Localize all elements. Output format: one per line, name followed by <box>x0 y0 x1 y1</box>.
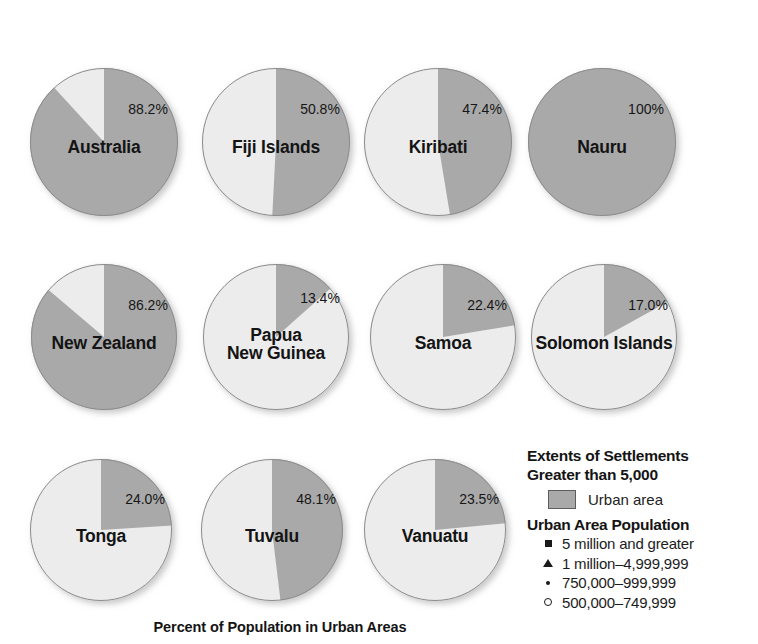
pie-slice-urban <box>272 459 343 600</box>
pie-slice-urban <box>101 459 172 530</box>
filled-square-icon <box>540 534 556 554</box>
pie-chart-tonga: 24.0%Tonga <box>20 449 182 611</box>
pie-graphic <box>191 449 353 611</box>
pie-chart-solomon-islands: 17.0%Solomon Islands <box>521 254 687 420</box>
pie-chart-kiribati: 47.4%Kiribati <box>354 58 522 226</box>
pie-chart-new-zealand: 86.2%New Zealand <box>21 254 187 420</box>
pie-graphic <box>192 58 360 226</box>
legend-population-items: 5 million and greater1 million–4,999,999… <box>527 534 758 612</box>
urban-area-swatch-icon <box>548 490 576 509</box>
pie-graphic <box>20 449 182 611</box>
pie-chart-nauru: 100%Nauru <box>518 58 686 226</box>
legend-item: 5 million and greater <box>527 534 758 554</box>
legend-item-label: 750,000–999,999 <box>562 573 676 593</box>
pie-graphic <box>518 58 686 226</box>
pie-chart-tuvalu: 48.1%Tuvalu <box>191 449 353 611</box>
filled-square-icon-shape <box>545 540 552 547</box>
pie-chart-figure: 88.2%Australia50.8%Fiji Islands47.4%Kiri… <box>0 0 758 644</box>
hollow-circle-icon-shape <box>544 598 552 606</box>
pie-graphic <box>354 449 516 611</box>
pie-slice-urban <box>435 459 506 530</box>
hollow-circle-icon <box>540 593 556 613</box>
legend-urban-area-label: Urban area <box>588 491 663 508</box>
pie-chart-fiji-islands: 50.8%Fiji Islands <box>192 58 360 226</box>
legend-item: 750,000–999,999 <box>527 573 758 593</box>
legend-item-label: 5 million and greater <box>562 534 694 554</box>
pie-chart-samoa: 22.4%Samoa <box>360 254 526 420</box>
pie-graphic <box>193 254 359 420</box>
pie-chart-papua-new-guinea: 13.4%PapuaNew Guinea <box>193 254 359 420</box>
pie-graphic <box>360 254 526 420</box>
legend-item: 1 million–4,999,999 <box>527 554 758 574</box>
legend-panel: Extents of Settlements Greater than 5,00… <box>527 447 758 612</box>
pie-chart-vanuatu: 23.5%Vanuatu <box>354 449 516 611</box>
pie-chart-australia: 88.2%Australia <box>20 58 188 226</box>
pie-graphic <box>21 254 187 420</box>
legend-item: 500,000–749,999 <box>527 593 758 613</box>
legend-population-heading: Urban Area Population <box>527 515 758 534</box>
legend-heading-line-1: Extents of Settlements <box>527 447 758 466</box>
pie-graphic <box>521 254 687 420</box>
filled-dot-icon <box>540 573 556 593</box>
filled-triangle-icon-shape <box>543 559 553 567</box>
pie-slice-urban <box>272 68 350 216</box>
legend-heading: Extents of Settlements Greater than 5,00… <box>527 447 758 484</box>
pie-slice-urban <box>443 264 515 337</box>
legend-heading-line-2: Greater than 5,000 <box>527 466 758 485</box>
figure-caption: Percent of Population in Urban Areas <box>0 619 560 635</box>
legend-item-label: 1 million–4,999,999 <box>562 554 688 574</box>
filled-dot-icon-shape <box>546 581 551 586</box>
pie-graphic <box>354 58 522 226</box>
pie-slice-urban <box>438 68 512 215</box>
filled-triangle-icon <box>540 554 556 574</box>
pie-graphic <box>20 58 188 226</box>
legend-item-label: 500,000–749,999 <box>562 593 676 613</box>
legend-urban-area-row: Urban area <box>527 490 758 509</box>
